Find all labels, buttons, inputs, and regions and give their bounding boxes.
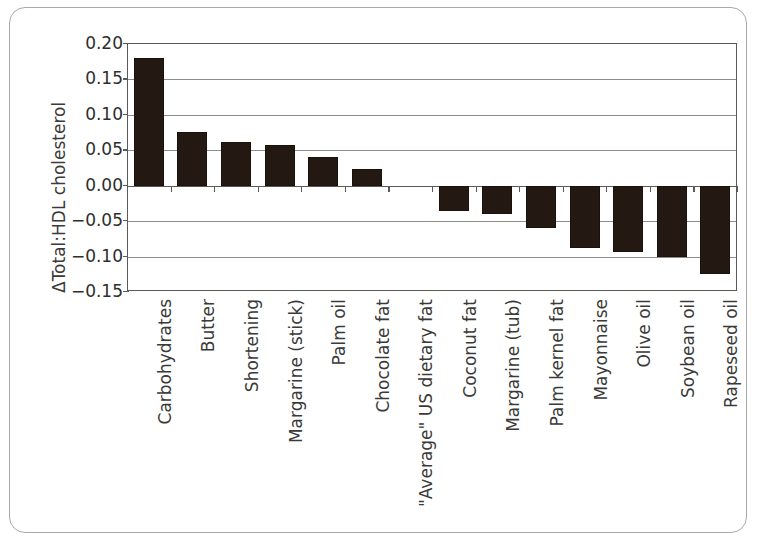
x-tick-mark xyxy=(606,186,607,192)
y-tick-label: −0.15 xyxy=(51,281,123,301)
y-tick-label: 0.20 xyxy=(51,33,123,53)
y-axis-ticks: 0.200.150.100.050.00−0.05−0.10−0.15 xyxy=(47,43,123,291)
x-tick-label: Palm kernel fat xyxy=(547,291,567,426)
x-tick-mark xyxy=(476,186,477,192)
x-tick-label: Soybean oil xyxy=(678,291,698,398)
y-tick-label: −0.05 xyxy=(51,210,123,230)
x-tick-mark xyxy=(737,186,738,192)
bar xyxy=(352,169,382,186)
bar xyxy=(177,132,207,186)
bar xyxy=(570,186,600,248)
x-tick-mark xyxy=(388,186,389,192)
bar xyxy=(134,58,164,186)
x-tick-mark xyxy=(432,186,433,192)
y-tick-label: 0.05 xyxy=(51,139,123,159)
y-tick-label: 0.15 xyxy=(51,68,123,88)
x-tick-mark xyxy=(563,186,564,192)
gridline xyxy=(128,257,736,258)
y-tick-label: −0.10 xyxy=(51,246,123,266)
bar xyxy=(526,186,556,229)
gridline xyxy=(128,115,736,116)
y-tick-label: 0.00 xyxy=(51,175,123,195)
x-tick-mark xyxy=(519,186,520,192)
x-tick-label: Palm oil xyxy=(329,291,349,365)
bar xyxy=(700,186,730,275)
x-tick-label: Carbohydrates xyxy=(155,291,175,424)
y-tick-label: 0.10 xyxy=(51,104,123,124)
bar xyxy=(439,186,469,212)
figure-card: ΔTotal:HDL cholesterol 0.200.150.100.050… xyxy=(9,7,747,533)
bar xyxy=(482,186,512,214)
x-tick-mark xyxy=(301,186,302,192)
x-tick-label: Rapeseed oil xyxy=(721,291,741,408)
x-tick-mark xyxy=(693,186,694,192)
gridline xyxy=(128,79,736,80)
x-tick-label: "Average" US dietary fat xyxy=(416,291,436,507)
x-tick-label: Mayonnaise xyxy=(591,291,611,401)
x-tick-label: Coconut fat xyxy=(460,291,480,398)
x-axis-labels: CarbohydratesButterShorteningMargarine (… xyxy=(127,291,737,531)
bar xyxy=(613,186,643,253)
x-tick-mark xyxy=(214,186,215,192)
plot-area xyxy=(127,43,737,291)
bar xyxy=(657,186,687,258)
x-tick-label: Butter xyxy=(198,291,218,352)
gridline xyxy=(128,221,736,222)
bar xyxy=(308,157,338,186)
x-tick-mark xyxy=(650,186,651,192)
x-tick-label: Margarine (stick) xyxy=(286,291,306,443)
x-tick-label: Chocolate fat xyxy=(373,291,393,413)
x-tick-mark xyxy=(171,186,172,192)
x-tick-mark xyxy=(258,186,259,192)
x-tick-label: Shortening xyxy=(242,291,262,392)
bar xyxy=(221,142,251,186)
gridline xyxy=(128,150,736,151)
bar xyxy=(265,145,295,186)
x-tick-mark xyxy=(345,186,346,192)
x-tick-label: Olive oil xyxy=(634,291,654,368)
x-tick-label: Margarine (tub) xyxy=(503,291,523,432)
